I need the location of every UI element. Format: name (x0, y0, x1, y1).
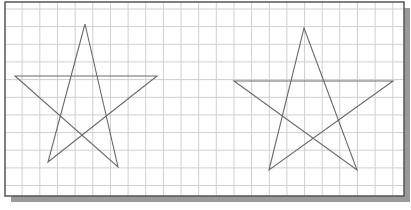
graph-paper-diagram (0, 0, 411, 210)
